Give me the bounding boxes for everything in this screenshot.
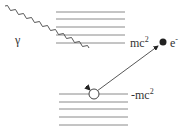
electron-trajectory-arrow (97, 46, 158, 91)
hole-icon (89, 89, 99, 99)
electron-label: e- (170, 35, 178, 50)
electron-icon (160, 39, 167, 46)
photon-label: γ (14, 33, 21, 47)
positive-energy-label: mc2 (130, 35, 149, 50)
photon-arrow (86, 86, 90, 90)
negative-energy-label: -mc2 (131, 87, 154, 102)
diagram-canvas: γ mc2 e- -mc2 (0, 0, 189, 133)
